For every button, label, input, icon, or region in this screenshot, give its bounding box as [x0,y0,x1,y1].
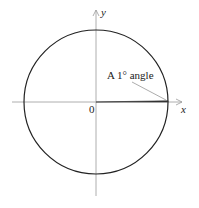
y-axis-label: y [100,6,106,18]
origin-label: 0 [89,103,95,115]
annotation-leader-line [132,82,166,100]
x-axis-label: x [180,103,186,115]
one-degree-wedge [96,101,168,102]
angle-annotation: A 1° angle [107,69,154,81]
unit-circle-diagram: y x 0 A 1° angle [0,0,199,208]
